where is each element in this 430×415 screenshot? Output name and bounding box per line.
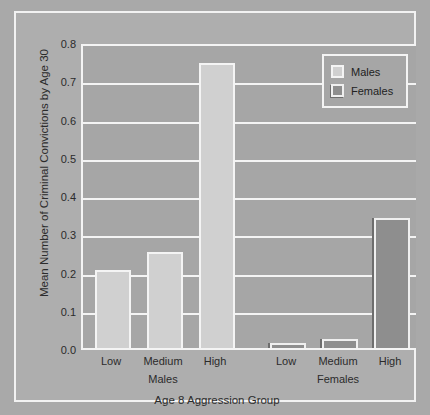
bar-males-low (95, 270, 131, 348)
x-axis-tick-label: Low (101, 355, 121, 367)
x-axis-tick-label: High (204, 355, 227, 367)
legend-label: Females (351, 85, 393, 97)
legend-swatch-icon (331, 65, 344, 78)
chart-legend: MalesFemales (322, 54, 408, 108)
bar-males-medium (147, 252, 183, 348)
chart-outer-frame: 0.00.10.20.30.40.50.60.70.8 Mean Number … (14, 11, 416, 402)
legend-item-males: Males (331, 62, 399, 81)
x-axis-group-label-males: Males (148, 373, 177, 385)
legend-item-females: Females (331, 81, 399, 100)
x-axis-title: Age 8 Aggression Group (16, 394, 418, 406)
x-axis-group-label-females: Females (317, 373, 359, 385)
gridline (83, 236, 416, 238)
gridline (83, 160, 416, 162)
bar-females-medium (322, 339, 358, 348)
gridline (83, 313, 416, 315)
x-axis-tick-label: High (379, 355, 402, 367)
y-axis-tick-labels: 0.00.10.20.30.40.50.60.70.8 (24, 44, 76, 350)
gridline (83, 122, 416, 124)
bar-females-high (374, 218, 410, 348)
x-axis-tick-label: Medium (143, 355, 182, 367)
y-axis-tick-label: 0.0 (32, 344, 76, 356)
x-axis-tick-label: Medium (318, 355, 357, 367)
legend-swatch-icon (331, 84, 344, 97)
bar-females-low (270, 343, 306, 348)
gridline (83, 198, 416, 200)
gridline (83, 275, 416, 277)
y-axis-title: Mean Number of Criminal Convictions by A… (38, 23, 50, 323)
chart-figure: 0.00.10.20.30.40.50.60.70.8 Mean Number … (0, 0, 430, 415)
x-axis-tick-label: Low (276, 355, 296, 367)
legend-label: Males (351, 66, 380, 78)
bar-males-high (199, 63, 235, 348)
